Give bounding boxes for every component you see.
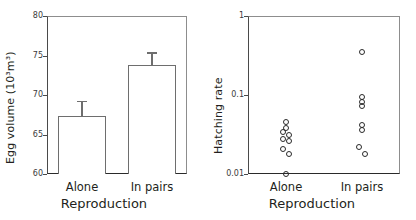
y-tick-label: 1 <box>218 11 244 20</box>
figure-two-panel: Egg volume (10³m³) Reproduction 60657075… <box>0 0 416 220</box>
panel-egg-volume: Egg volume (10³m³) Reproduction 60657075… <box>0 0 208 220</box>
category-label-alone: Alone <box>242 180 330 194</box>
category-label-in-pairs: In pairs <box>318 180 406 194</box>
y-tick-mark <box>244 16 248 17</box>
y-tick-mark <box>43 16 47 17</box>
y-tick-mark <box>244 95 248 96</box>
data-point <box>359 127 365 133</box>
data-point <box>280 146 286 152</box>
data-point <box>362 151 368 157</box>
data-point <box>286 151 292 157</box>
data-point <box>356 144 362 150</box>
category-label-in-pairs: In pairs <box>108 180 196 194</box>
y-tick-mark <box>43 95 47 96</box>
error-bar-cap <box>77 101 87 102</box>
x-axis-label-reproduction: Reproduction <box>208 196 416 211</box>
x-axis-label-reproduction: Reproduction <box>0 196 208 211</box>
data-point <box>359 49 365 55</box>
y-tick-label: 75 <box>20 51 43 60</box>
y-tick-mark <box>43 56 47 57</box>
y-axis-label-hatching-rate: Hatching rate <box>212 44 225 154</box>
y-axis-label-egg-volume: Egg volume (10³m³) <box>4 26 17 164</box>
bar-in-pairs <box>128 65 176 174</box>
y-tick-mark <box>244 174 248 175</box>
y-tick-label: 60 <box>20 169 43 178</box>
y-tick-label: 0.01 <box>218 169 244 178</box>
error-bar <box>151 52 152 65</box>
error-bar <box>81 101 82 117</box>
plot-area-hatching-rate <box>248 16 400 174</box>
bar-alone <box>58 116 106 174</box>
y-tick-label: 70 <box>20 90 43 99</box>
data-point <box>283 171 289 177</box>
y-tick-label: 65 <box>20 130 43 139</box>
panel-hatching-rate: Hatching rate Reproduction 0.010.11Alone… <box>208 0 416 220</box>
y-tick-mark <box>43 174 47 175</box>
error-bar-cap <box>147 52 157 53</box>
y-tick-mark <box>43 135 47 136</box>
y-tick-label: 80 <box>20 11 43 20</box>
y-tick-label: 0.1 <box>218 90 244 99</box>
